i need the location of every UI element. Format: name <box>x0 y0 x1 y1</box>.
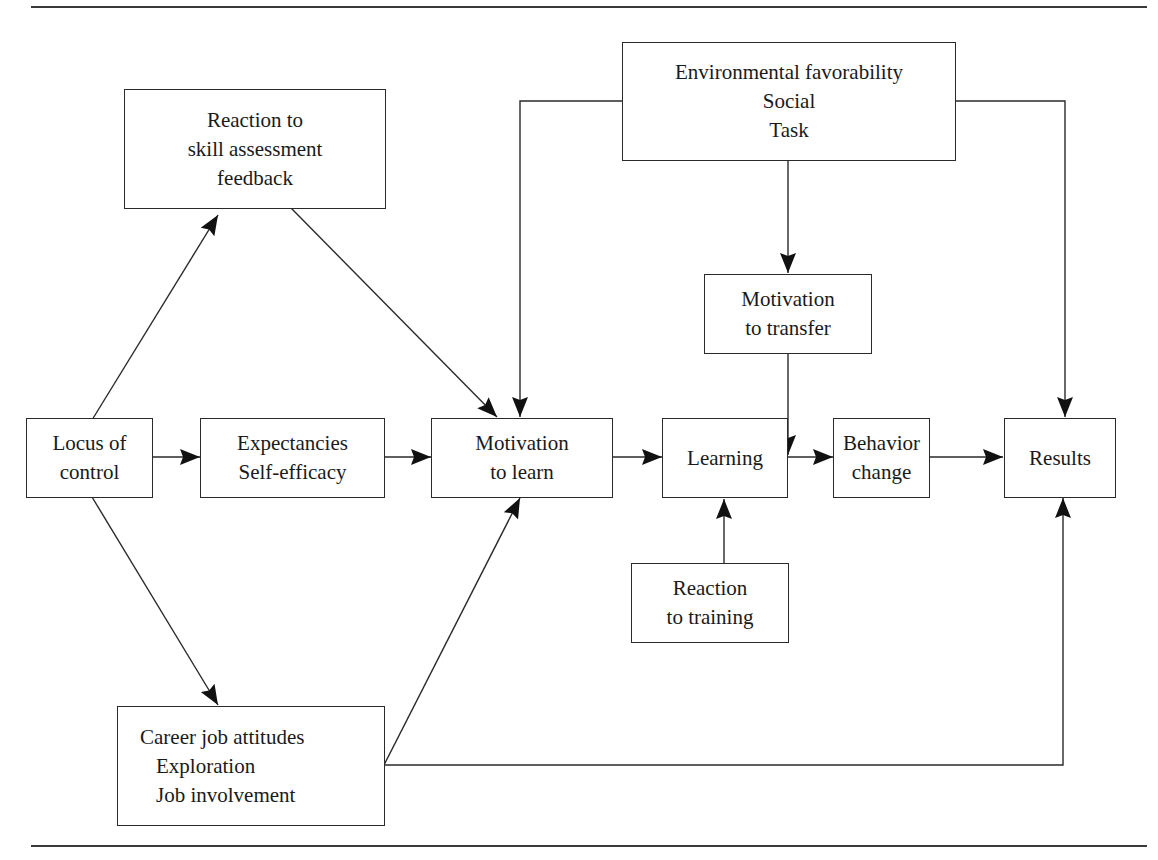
node-text: to transfer <box>745 314 831 343</box>
node-behavior-change: Behavior change <box>833 418 930 498</box>
edge-career-to-motivation-learn <box>384 498 520 765</box>
node-text: Reaction <box>673 574 748 603</box>
node-text: to learn <box>490 458 554 487</box>
node-learning: Learning <box>662 418 788 498</box>
edge-environment-to-motivation-learn <box>520 101 622 417</box>
node-text: Environmental favorability <box>675 58 903 87</box>
node-text: Motivation <box>475 429 568 458</box>
node-environmental-favorability: Environmental favorability Social Task <box>622 42 956 161</box>
node-text: control <box>60 458 119 487</box>
node-reaction-to-skill-assessment-feedback: Reaction to skill assessment feedback <box>124 89 386 209</box>
node-text: Social <box>763 87 816 116</box>
edge-locus-to-career <box>92 497 218 705</box>
node-expectancies-self-efficacy: Expectancies Self-efficacy <box>200 418 385 498</box>
edge-locus-to-reaction-skill <box>92 215 218 420</box>
node-text: skill assessment <box>188 135 323 164</box>
node-text: Self-efficacy <box>238 458 346 487</box>
node-motivation-to-transfer: Motivation to transfer <box>704 274 872 354</box>
node-text: Reaction to <box>207 106 303 135</box>
node-text: Job involvement <box>140 781 295 810</box>
node-motivation-to-learn: Motivation to learn <box>431 418 613 498</box>
node-text: Exploration <box>140 752 255 781</box>
edge-reaction-skill-to-motivation-learn <box>291 208 497 417</box>
edge-environment-to-results <box>955 101 1065 417</box>
node-text: Task <box>769 116 808 145</box>
node-text: Learning <box>687 444 763 473</box>
node-text: Expectancies <box>237 429 348 458</box>
node-text: Behavior <box>843 429 920 458</box>
node-text: Results <box>1029 444 1091 473</box>
node-locus-of-control: Locus of control <box>26 418 153 498</box>
node-text: Career job attitudes <box>140 723 304 752</box>
node-results: Results <box>1004 418 1116 498</box>
node-reaction-to-training: Reaction to training <box>631 563 789 643</box>
node-text: to training <box>667 603 754 632</box>
node-text: change <box>852 458 911 487</box>
node-text: Locus of <box>52 429 126 458</box>
node-text: Motivation <box>741 285 834 314</box>
node-career-job-attitudes: Career job attitudes Exploration Job inv… <box>117 706 385 826</box>
node-text: feedback <box>217 164 293 193</box>
